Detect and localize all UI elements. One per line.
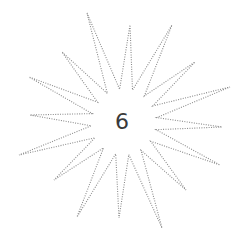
center-number-container: 6 [0,0,248,238]
center-number: 6 [115,109,129,135]
